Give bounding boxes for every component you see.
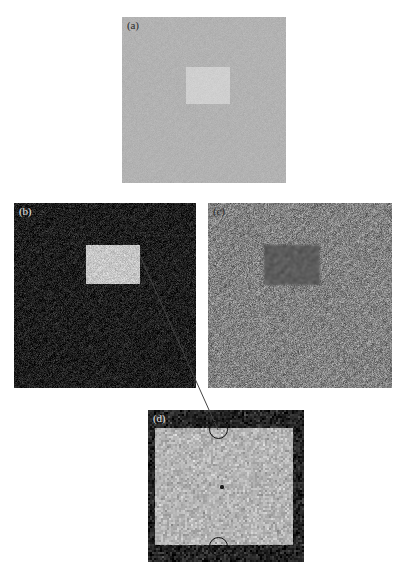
panel-c-noise-field: [208, 203, 392, 388]
panel-b: (b): [14, 203, 196, 388]
panel-c: (c): [208, 203, 392, 388]
panel-a: (a): [122, 17, 286, 183]
panel-d-inner-region: [155, 428, 293, 545]
boundary-marker-bottom: [209, 537, 228, 556]
panel-a-inner-region: [186, 67, 230, 104]
boundary-marker-top: [209, 420, 228, 439]
panel-c-inner-region: [264, 245, 320, 285]
panel-b-noise-field: [14, 203, 196, 388]
figure-container: (a) (b) (c) (d): [0, 0, 406, 577]
panel-b-inner-region: [86, 245, 140, 284]
center-speck: [220, 485, 223, 488]
